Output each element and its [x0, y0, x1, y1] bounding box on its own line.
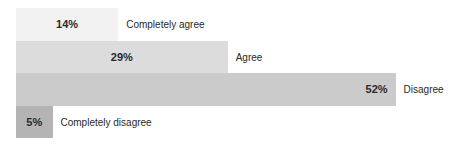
bar-disagree: [16, 73, 396, 106]
value-label: 29%: [16, 51, 228, 63]
category-label: Completely disagree: [61, 117, 152, 128]
value-label: 14%: [16, 18, 118, 30]
category-label: Completely agree: [126, 19, 204, 30]
category-label: Agree: [236, 52, 263, 63]
value-label: 52%: [366, 83, 388, 95]
category-label: Disagree: [404, 84, 444, 95]
value-label: 5%: [16, 116, 53, 128]
survey-bar-chart: 14%Completely agree29%Agree52%Disagree5%…: [0, 0, 458, 146]
